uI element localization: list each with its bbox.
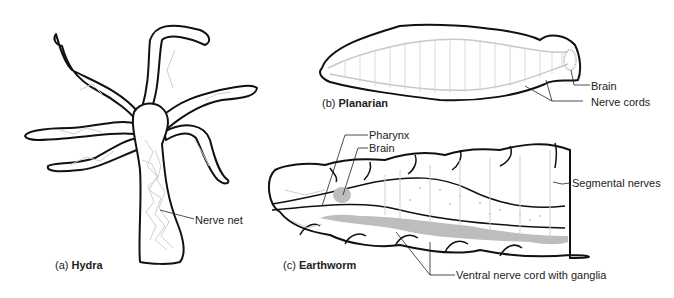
caption-hydra: (a) Hydra xyxy=(55,259,103,271)
label-nerve-net: Nerve net xyxy=(195,214,243,226)
caption-name: Earthworm xyxy=(299,259,356,271)
caption-planarian: (b) Planarian xyxy=(322,97,388,109)
earthworm-drawing xyxy=(269,143,589,258)
caption-prefix: (b) xyxy=(322,97,335,109)
diagram-canvas xyxy=(0,0,674,298)
caption-earthworm: (c) Earthworm xyxy=(283,259,356,271)
caption-name: Hydra xyxy=(72,259,103,271)
label-nerve-cords: Nerve cords xyxy=(591,96,650,108)
caption-prefix: (a) xyxy=(55,259,68,271)
label-segmental-nerves: Segmental nerves xyxy=(572,177,661,189)
label-ventral-nerve-cord: Ventral nerve cord with ganglia xyxy=(456,269,606,281)
caption-prefix: (c) xyxy=(283,259,296,271)
label-pharynx: Pharynx xyxy=(369,129,409,141)
hydra-drawing xyxy=(25,26,257,264)
caption-name: Planarian xyxy=(339,97,389,109)
label-earthworm-brain: Brain xyxy=(369,142,395,154)
label-planarian-brain: Brain xyxy=(591,80,617,92)
planarian-drawing xyxy=(320,25,580,100)
